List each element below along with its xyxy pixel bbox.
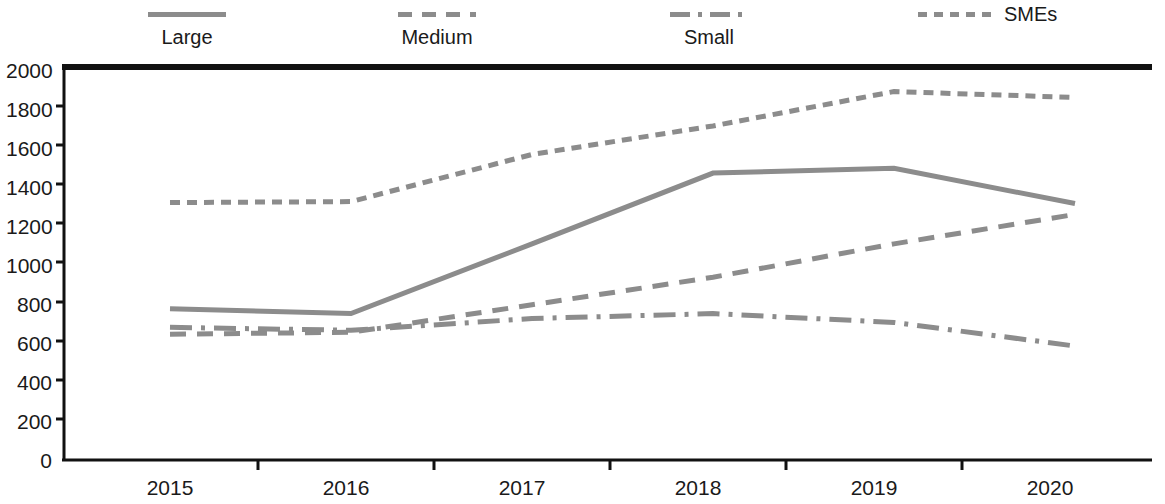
- legend-label-small: Small: [670, 26, 748, 48]
- legend-swatch-large-solid-line: [148, 12, 226, 17]
- legend-swatch-small-dashdot-line: [670, 12, 748, 17]
- legend-item-large[interactable]: Large: [148, 0, 226, 56]
- legend-swatch-medium-dashed-line: [398, 12, 476, 17]
- legend-item-medium[interactable]: Medium: [398, 0, 476, 56]
- chart-legend: Large Medium Small SMEs: [0, 0, 1165, 56]
- series-line-large: [170, 168, 1075, 313]
- series-line-small: [170, 314, 1075, 346]
- legend-item-smes[interactable]: SMEs: [918, 0, 1088, 56]
- chart-container: Large Medium Small SMEs 2000 1800 1600 1…: [0, 0, 1165, 504]
- legend-item-small[interactable]: Small: [670, 0, 748, 56]
- plot-frame: [62, 67, 1152, 460]
- data-series-group: [170, 92, 1075, 346]
- legend-label-large: Large: [148, 26, 226, 48]
- legend-label-smes: SMEs: [1004, 3, 1057, 25]
- legend-label-medium: Medium: [398, 26, 476, 48]
- chart-plot-svg: [0, 56, 1165, 504]
- series-line-smes: [170, 92, 1075, 203]
- legend-swatch-smes-dotted-line: [918, 12, 996, 17]
- plot-area-wrapper: 2000 1800 1600 1400 1200 1000 800 600 40…: [0, 56, 1165, 504]
